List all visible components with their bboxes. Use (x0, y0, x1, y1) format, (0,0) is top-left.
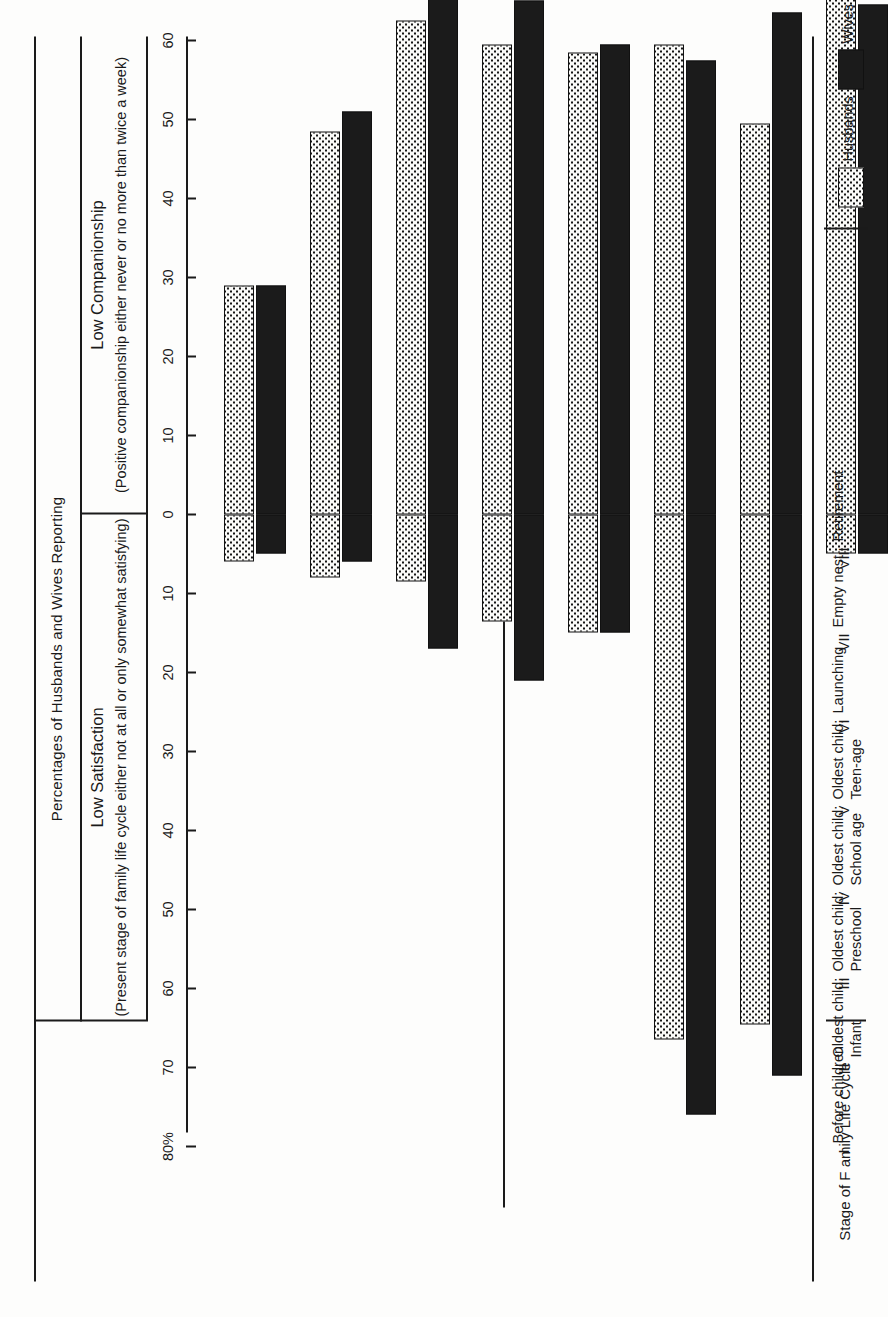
category-label: Retirement (829, 381, 847, 541)
bar-wives-satisfaction (256, 514, 286, 554)
category-numeral: III (836, 977, 852, 1011)
category-numeral: VII (836, 633, 852, 667)
legend-label-wives: Wives (840, 4, 856, 43)
bar-wives-companionship (342, 111, 372, 514)
header-title: Percentages of Husbands and Wives Report… (48, 0, 65, 1317)
bar-husbands-companionship (568, 52, 598, 514)
bar-wives-satisfaction (686, 514, 716, 1114)
plot-area: 80%7060504030201001020304050607080% (146, 0, 812, 1317)
bar-group-container (146, 0, 812, 1317)
legend-swatch-husbands (838, 167, 864, 207)
header-mid-rule (80, 36, 82, 1021)
category-numeral: II (836, 1063, 852, 1097)
right-section-note: (Positive companionship either never or … (112, 38, 132, 511)
bar-husbands-satisfaction (654, 514, 684, 1039)
header-top-rule (34, 36, 36, 1281)
bar-husbands-companionship (482, 44, 512, 514)
bar-husbands-satisfaction (482, 514, 512, 621)
bar-husbands-satisfaction (310, 514, 340, 577)
bar-husbands-satisfaction (740, 514, 770, 1024)
bar-husbands-satisfaction (224, 514, 254, 561)
bar-husbands-companionship (740, 123, 770, 514)
plot-bottom-rule (812, 36, 814, 1281)
bar-wives-companionship (772, 12, 802, 514)
bar-husbands-companionship (654, 44, 684, 514)
bar-husbands-satisfaction (568, 514, 598, 633)
right-section-title: Low Companionship (88, 38, 107, 511)
bar-wives-companionship (428, 0, 458, 514)
bar-wives-companionship (514, 1, 544, 515)
legend-rule (824, 227, 868, 229)
bar-wives-satisfaction (514, 514, 544, 680)
bar-husbands-companionship (224, 285, 254, 514)
legend-label-husbands: Husbands (840, 96, 856, 161)
left-section-note: (Present stage of family life cycle eith… (112, 517, 132, 1017)
category-numeral: V (836, 805, 852, 839)
bar-wives-companionship (256, 285, 286, 514)
category-numeral: IV (836, 891, 852, 925)
left-section-title: Low Satisfaction (88, 517, 107, 1017)
header-divider-mid (80, 512, 146, 514)
bar-husbands-companionship (310, 131, 340, 514)
category-numeral: VIII (836, 547, 852, 581)
category-numeral: VI (836, 719, 852, 753)
bar-husbands-satisfaction (396, 514, 426, 581)
bar-husbands-companionship (396, 20, 426, 514)
bar-wives-satisfaction (772, 514, 802, 1075)
bar-wives-companionship (600, 44, 630, 514)
bar-wives-satisfaction (342, 514, 372, 561)
bar-wives-companionship (686, 60, 716, 514)
bar-wives-satisfaction (858, 514, 888, 554)
legend-swatch-wives (838, 49, 864, 89)
category-numeral: I (836, 1149, 852, 1183)
bar-wives-satisfaction (600, 514, 630, 633)
bar-wives-satisfaction (428, 514, 458, 648)
